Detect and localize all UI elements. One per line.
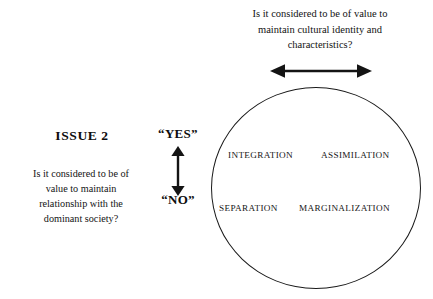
left-question-line-3: relationship with the	[6, 196, 156, 211]
axis-label-yes: “YES”	[146, 126, 210, 142]
quadrant-label-assimilation: ASSIMILATION	[321, 150, 390, 160]
top-question-line-3: characteristics?	[218, 37, 422, 53]
quadrant-label-integration: INTEGRATION	[228, 150, 293, 160]
left-question-line-4: dominant society?	[6, 211, 156, 226]
top-question-line-2: maintain cultural identity and	[218, 22, 422, 38]
vertical-double-arrow-icon	[166, 146, 190, 196]
top-question-line-1: Is it considered to be of value to	[218, 6, 422, 22]
axis-label-no: “NO”	[146, 192, 210, 208]
top-question-text: Is it considered to be of value to maint…	[218, 6, 422, 53]
issue-heading: ISSUE 2	[8, 128, 156, 144]
left-question-line-1: Is it considered to be of	[6, 166, 156, 181]
quadrant-label-marginalization: MARGINALIZATION	[299, 203, 390, 213]
strategy-circle	[211, 87, 421, 289]
acculturation-strategies-diagram: Is it considered to be of value to maint…	[0, 0, 433, 299]
quadrant-label-separation: SEPARATION	[219, 203, 278, 213]
left-question-text: Is it considered to be of value to maint…	[6, 166, 156, 226]
left-question-line-2: value to maintain	[6, 181, 156, 196]
horizontal-double-arrow-icon	[270, 60, 372, 82]
